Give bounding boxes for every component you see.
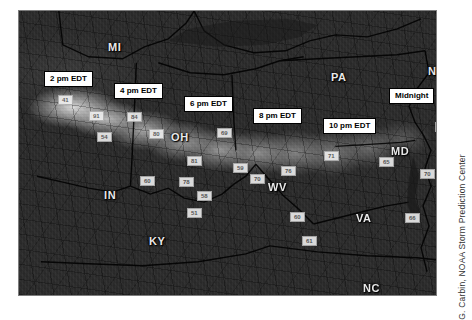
gust-report-gust-65: 65 (379, 157, 394, 167)
attribution: G. Carbin, NOAA Storm Prediction Center (454, 0, 470, 314)
time-callout-10-pm-edt[interactable]: 10 pm EDT (323, 118, 376, 134)
state-borders-layer (19, 11, 436, 296)
gust-report-gust-78: 78 (179, 177, 194, 187)
time-callout-2-pm-edt[interactable]: 2 pm EDT (44, 71, 93, 87)
gust-report-gust-41: 41 (58, 95, 73, 105)
gust-report-gust-61: 61 (302, 236, 317, 246)
gust-report-gust-59: 59 (233, 163, 248, 173)
gust-report-gust-58: 58 (197, 191, 212, 201)
gust-report-gust-54: 54 (97, 132, 112, 142)
time-callout-6-pm-edt[interactable]: 6 pm EDT (184, 96, 233, 112)
gust-report-gust-81: 81 (187, 156, 202, 166)
time-callout-4-pm-edt[interactable]: 4 pm EDT (114, 83, 163, 99)
gust-report-gust-70a: 70 (250, 174, 265, 184)
gust-report-gust-80: 80 (149, 129, 164, 139)
gust-report-gust-51: 51 (187, 208, 202, 218)
gust-report-gust-66: 66 (405, 213, 420, 223)
gust-report-gust-74: 74 (435, 122, 437, 132)
time-callout-midnight[interactable]: Midnight (389, 88, 434, 104)
gust-report-gust-60: 60 (140, 176, 155, 186)
radar-map-canvas[interactable]: 4191845480698159607858517076716574706066… (18, 10, 437, 296)
gust-report-gust-69: 69 (217, 128, 232, 138)
attribution-text: G. Carbin, NOAA Storm Prediction Center (457, 154, 467, 320)
gust-report-gust-70b: 70 (420, 169, 435, 179)
gust-report-gust-84: 84 (127, 112, 142, 122)
gust-report-gust-71: 71 (324, 151, 339, 161)
time-callout-8-pm-edt[interactable]: 8 pm EDT (253, 108, 302, 124)
gust-report-gust-91: 91 (89, 111, 104, 121)
gust-report-gust-76: 76 (281, 166, 296, 176)
gust-report-gust-60b: 60 (290, 212, 305, 222)
